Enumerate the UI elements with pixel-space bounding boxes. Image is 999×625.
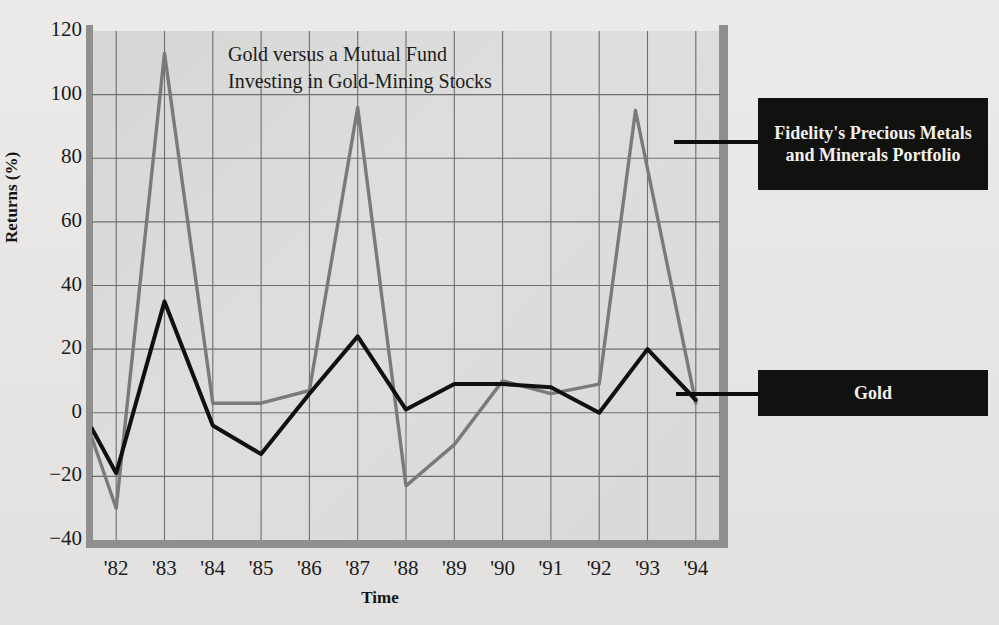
chart-page: Returns (%) 120100806040200−20−40 '82'83… <box>0 0 999 625</box>
x-tick-label: '94 <box>672 556 720 581</box>
data-series-lines <box>92 31 720 540</box>
plot-right-border <box>719 25 728 546</box>
x-tick-label: '89 <box>430 556 478 581</box>
chart-title-line-2: Investing in Gold-Mining Stocks <box>228 68 568 95</box>
x-axis-line <box>86 540 728 548</box>
y-tick-label: 0 <box>12 401 82 422</box>
x-tick-label: '84 <box>189 556 237 581</box>
y-tick-label: −40 <box>12 528 82 549</box>
x-tick-label: '91 <box>527 556 575 581</box>
y-tick-label: 120 <box>12 19 82 40</box>
y-tick-label: −20 <box>12 464 82 485</box>
y-tick-label: 20 <box>12 337 82 358</box>
x-tick-label: '83 <box>140 556 188 581</box>
x-tick-label: '88 <box>382 556 430 581</box>
legend-leader-line-fidelity <box>674 140 760 144</box>
chart-title: Gold versus a Mutual Fund Investing in G… <box>228 41 568 95</box>
y-tick-label: 80 <box>12 146 82 167</box>
x-tick-label: '85 <box>237 556 285 581</box>
legend-box-fidelity: Fidelity's Precious Metals and Minerals … <box>758 98 988 190</box>
x-tick-label: '93 <box>624 556 672 581</box>
legend-leader-line-gold <box>676 392 760 396</box>
legend-box-gold: Gold <box>758 370 988 416</box>
chart-title-line-1: Gold versus a Mutual Fund <box>228 41 568 68</box>
x-axis-label: Time <box>0 588 760 608</box>
x-tick-label: '87 <box>334 556 382 581</box>
y-tick-label: 60 <box>12 210 82 231</box>
plot-area <box>92 31 720 540</box>
y-tick-label: 40 <box>12 274 82 295</box>
y-tick-label: 100 <box>12 83 82 104</box>
x-tick-label: '86 <box>285 556 333 581</box>
x-tick-label: '92 <box>575 556 623 581</box>
x-tick-label: '82 <box>92 556 140 581</box>
x-tick-label: '90 <box>479 556 527 581</box>
